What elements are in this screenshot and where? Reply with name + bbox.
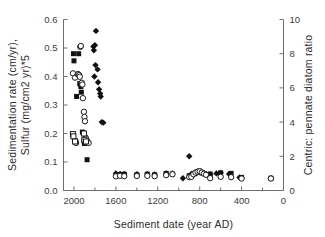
- right-axis-ticklabels: 0246810: [290, 14, 301, 196]
- bottom-ticklabel: 1600: [105, 195, 126, 206]
- datapoint-open-circle: [78, 43, 83, 48]
- datapoint-open-circle: [170, 172, 175, 177]
- datapoint-open-circle: [152, 173, 157, 178]
- bottom-ticklabel: 0: [281, 195, 286, 206]
- datapoint-open-square: [84, 139, 89, 144]
- left-ticklabel: 0.5: [44, 42, 57, 53]
- datapoint-filled-diamond: [93, 28, 99, 34]
- left-axis-ticklabels: 0.00.10.20.30.40.50.6: [44, 14, 57, 196]
- datapoint-open-circle: [163, 172, 168, 177]
- left-ticklabel: 0.6: [44, 14, 57, 25]
- chart-svg: 0.00.10.20.30.40.50.6 0246810 2000160012…: [0, 0, 325, 237]
- datapoint-filled-diamond: [95, 79, 101, 85]
- right-axis-title: Centric: pennate diatom ratio: [302, 35, 314, 176]
- datapoint-open-square: [81, 131, 86, 136]
- left-ticklabel: 0.2: [44, 128, 57, 139]
- left-axis-title-line2: Sulfur (mg/cm2 yr)*5: [19, 55, 31, 155]
- left-ticklabel: 0.1: [44, 156, 57, 167]
- datapoint-filled-square: [71, 51, 76, 56]
- datapoint-open-circle: [268, 176, 273, 181]
- datapoint-filled-square: [74, 94, 79, 99]
- datapoint-open-square: [73, 139, 78, 144]
- datapoint-open-circle: [145, 173, 150, 178]
- datapoint-open-circle: [82, 119, 87, 124]
- left-ticklabel: 0.0: [44, 185, 57, 196]
- right-axis-ticks: [280, 20, 284, 191]
- datapoint-open-circle: [80, 95, 85, 100]
- datapoint-open-square: [71, 134, 76, 139]
- left-axis-title-line1: Sedimentation rate (cm/yr),: [6, 39, 18, 171]
- datapoint-open-circle: [80, 82, 85, 87]
- left-ticklabel: 0.4: [44, 71, 57, 82]
- datapoint-open-circle: [134, 173, 139, 178]
- right-ticklabel: 6: [290, 82, 295, 93]
- datapoint-open-circle: [81, 109, 86, 114]
- datapoint-open-circle: [218, 174, 223, 179]
- datapoint-open-circle: [207, 175, 212, 180]
- data-points-layer: [70, 28, 274, 182]
- left-axis-ticks: [64, 20, 68, 191]
- right-ticklabel: 2: [290, 151, 295, 162]
- x-axis-title: Sediment date (year AD): [114, 218, 234, 230]
- right-ticklabel: 0: [290, 185, 295, 196]
- datapoint-filled-square: [71, 58, 76, 63]
- bottom-ticklabel: 800: [192, 195, 208, 206]
- datapoint-open-circle: [77, 74, 82, 79]
- datapoint-open-circle: [228, 174, 233, 179]
- datapoint-open-circle: [239, 176, 244, 181]
- bottom-ticklabel: 400: [234, 195, 250, 206]
- datapoint-filled-square: [76, 51, 81, 56]
- left-ticklabel: 0.3: [44, 99, 57, 110]
- bottom-axis-ticklabels: 2000160012008004000: [63, 195, 286, 206]
- datapoint-open-circle: [122, 173, 127, 178]
- bottom-ticklabel: 1200: [147, 195, 168, 206]
- datapoint-filled-square: [79, 90, 84, 95]
- datapoint-filled-diamond: [180, 175, 186, 181]
- datapoint-filled-diamond: [91, 73, 97, 79]
- bottom-ticklabel: 2000: [63, 195, 84, 206]
- right-ticklabel: 4: [290, 117, 295, 128]
- datapoint-filled-diamond: [186, 153, 192, 159]
- right-ticklabel: 8: [290, 48, 295, 59]
- scatter-chart-figure: 0.00.10.20.30.40.50.6 0246810 2000160012…: [0, 0, 325, 237]
- right-ticklabel: 10: [290, 14, 301, 25]
- datapoint-filled-square: [85, 157, 90, 162]
- bottom-axis-ticks: [74, 187, 284, 191]
